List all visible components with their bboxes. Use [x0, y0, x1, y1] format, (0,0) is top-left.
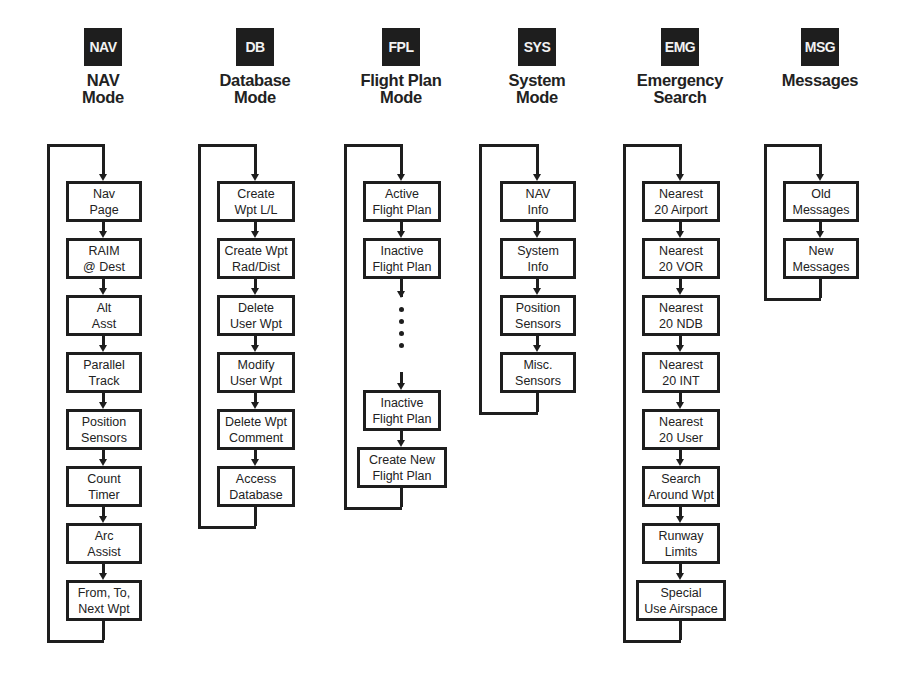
mode-item-emg[interactable]: Nearest 20 VOR: [642, 238, 720, 279]
arrow-down-icon: [676, 459, 684, 466]
mode-item-nav[interactable]: Alt Asst: [66, 295, 142, 336]
arrow-down-icon: [676, 573, 684, 580]
mode-item-emg[interactable]: Nearest 20 User: [642, 409, 720, 450]
arrow-down-icon: [676, 174, 684, 181]
ellipsis-dot-icon: [399, 319, 404, 324]
arrow-down-icon: [676, 516, 684, 523]
arrow-down-icon: [251, 402, 259, 409]
arrow-down-icon: [533, 231, 541, 238]
mode-item-emg[interactable]: Special Use Airspace: [636, 580, 726, 621]
mode-item-msg[interactable]: New Messages: [783, 238, 859, 279]
arrow-down-icon: [397, 291, 405, 298]
loop-line: [198, 526, 256, 529]
arrow-down-icon: [251, 288, 259, 295]
arrow-down-icon: [533, 288, 541, 295]
arrow-down-icon: [99, 459, 107, 466]
loop-line: [479, 144, 538, 147]
mode-title-msg: Messages: [760, 72, 880, 89]
loop-line: [536, 393, 539, 412]
mode-key-msg[interactable]: MSG: [801, 28, 839, 66]
loop-line: [764, 298, 821, 301]
arrow-down-icon: [397, 440, 405, 447]
loop-line: [623, 144, 681, 147]
mode-item-sys[interactable]: Position Sensors: [500, 295, 576, 336]
loop-line: [47, 144, 104, 147]
loop-line: [400, 488, 403, 507]
mode-key-emg[interactable]: EMG: [661, 28, 699, 66]
arrow-down-icon: [251, 345, 259, 352]
loop-line: [623, 144, 626, 643]
loop-line: [198, 144, 201, 529]
mode-item-emg[interactable]: Search Around Wpt: [642, 466, 720, 507]
loop-line: [102, 144, 105, 175]
mode-title-fpl: Flight Plan Mode: [341, 72, 461, 106]
mode-item-emg[interactable]: Nearest 20 INT: [642, 352, 720, 393]
arrow-down-icon: [676, 402, 684, 409]
loop-line: [198, 144, 256, 147]
loop-line: [254, 144, 257, 175]
loop-line: [102, 621, 105, 640]
mode-item-nav[interactable]: Nav Page: [66, 181, 142, 222]
mode-item-fpl[interactable]: Create New Flight Plan: [357, 447, 447, 488]
arrow-down-icon: [397, 383, 405, 390]
mode-item-nav[interactable]: Count Timer: [66, 466, 142, 507]
arrow-down-icon: [99, 516, 107, 523]
arrow-down-icon: [397, 231, 405, 238]
arrow-down-icon: [533, 345, 541, 352]
arrow-down-icon: [99, 174, 107, 181]
loop-line: [819, 144, 822, 175]
arrow-down-icon: [397, 174, 405, 181]
mode-item-emg[interactable]: Nearest 20 Airport: [642, 181, 720, 222]
ellipsis-dot-icon: [399, 343, 404, 348]
mode-item-msg[interactable]: Old Messages: [783, 181, 859, 222]
loop-line: [679, 144, 682, 175]
mode-item-db[interactable]: Modify User Wpt: [217, 352, 295, 393]
mode-item-db[interactable]: Delete User Wpt: [217, 295, 295, 336]
mode-item-db[interactable]: Access Database: [217, 466, 295, 507]
arrow-down-icon: [676, 288, 684, 295]
arrow-down-icon: [533, 174, 541, 181]
loop-line: [623, 640, 681, 643]
mode-key-db[interactable]: DB: [236, 28, 274, 66]
mode-item-db[interactable]: Create Wpt L/L: [217, 181, 295, 222]
mode-item-fpl[interactable]: Inactive Flight Plan: [363, 238, 441, 279]
mode-title-nav: NAV Mode: [43, 72, 163, 106]
loop-line: [819, 279, 822, 298]
loop-line: [344, 144, 402, 147]
arrow-down-icon: [251, 174, 259, 181]
loop-line: [47, 144, 50, 643]
mode-title-db: Database Mode: [195, 72, 315, 106]
mode-item-emg[interactable]: Nearest 20 NDB: [642, 295, 720, 336]
arrow-down-icon: [99, 231, 107, 238]
loop-line: [400, 144, 403, 175]
mode-item-nav[interactable]: Position Sensors: [66, 409, 142, 450]
arrow-down-icon: [251, 231, 259, 238]
mode-item-db[interactable]: Delete Wpt Comment: [217, 409, 295, 450]
mode-key-sys[interactable]: SYS: [518, 28, 556, 66]
loop-line: [764, 144, 821, 147]
mode-item-fpl[interactable]: Active Flight Plan: [363, 181, 441, 222]
arrow-down-icon: [99, 345, 107, 352]
loop-line: [344, 144, 347, 510]
mode-item-sys[interactable]: NAV Info: [500, 181, 576, 222]
mode-key-fpl[interactable]: FPL: [382, 28, 420, 66]
mode-item-db[interactable]: Create Wpt Rad/Dist: [217, 238, 295, 279]
mode-item-nav[interactable]: RAIM @ Dest: [66, 238, 142, 279]
mode-item-nav[interactable]: From, To, Next Wpt: [66, 580, 142, 621]
loop-line: [479, 144, 482, 415]
mode-item-emg[interactable]: Runway Limits: [642, 523, 720, 564]
arrow-down-icon: [816, 174, 824, 181]
mode-item-sys[interactable]: System Info: [500, 238, 576, 279]
mode-key-nav[interactable]: NAV: [84, 28, 122, 66]
arrow-down-icon: [99, 402, 107, 409]
mode-item-sys[interactable]: Misc. Sensors: [500, 352, 576, 393]
arrow-down-icon: [676, 231, 684, 238]
loop-line: [679, 621, 682, 640]
mode-item-nav[interactable]: Arc Assist: [66, 523, 142, 564]
arrow-down-icon: [251, 459, 259, 466]
arrow-down-icon: [676, 345, 684, 352]
mode-item-nav[interactable]: Parallel Track: [66, 352, 142, 393]
loop-line: [536, 144, 539, 175]
mode-item-fpl[interactable]: Inactive Flight Plan: [363, 390, 441, 431]
arrow-down-icon: [99, 573, 107, 580]
